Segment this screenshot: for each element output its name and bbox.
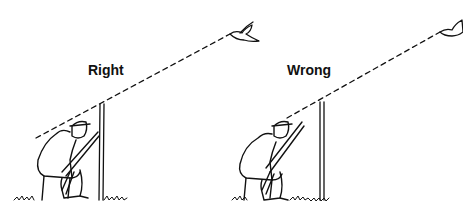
illustration: [0, 0, 463, 220]
sight-line-wrong: [287, 32, 440, 118]
hunter-wrong: [240, 122, 304, 201]
pole-right: [99, 104, 104, 200]
pole-wrong: [320, 102, 324, 200]
hunter-right: [38, 122, 99, 201]
bird-icon: [440, 20, 463, 36]
sight-line-right: [36, 34, 230, 138]
bird-icon: [230, 22, 259, 41]
